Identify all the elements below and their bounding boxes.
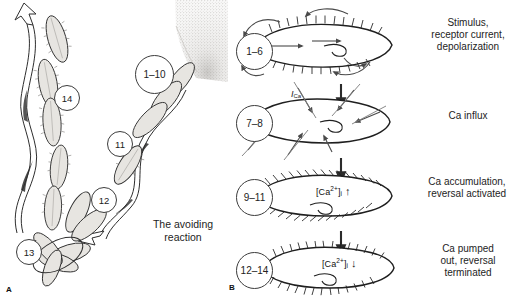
b-step-4-text: Ca pumped out, reversal terminated: [409, 243, 527, 280]
paramecium-cell: [42, 13, 73, 64]
a-marker-12: 12: [91, 187, 117, 213]
b-marker-7-8: 7–8: [236, 105, 273, 142]
down-arrow-icon: ↓: [348, 258, 357, 269]
panel-b: ICa [Ca2+]i ↑ [Ca2+]i ↓ 1–6 7–8 9–11 12–…: [228, 0, 529, 301]
a-marker-1-10-label: 1–10: [143, 69, 165, 80]
b-marker-1-6-label: 1–6: [246, 46, 263, 57]
b-step-2-text: Ca influx: [409, 110, 527, 122]
avoiding-reaction-caption: The avoiding reaction: [138, 218, 228, 243]
ica-current-label: ICa: [291, 89, 301, 99]
figure-root: 14 1–10 11 12 13 The avoiding reaction A: [0, 0, 529, 301]
panel-a: 14 1–10 11 12 13 The avoiding reaction A: [0, 0, 228, 301]
a-marker-11: 11: [107, 131, 133, 157]
calcium-concentration-label-4: [Ca2+]i: [322, 257, 348, 269]
paramecium-cell: [43, 186, 62, 231]
inbound-swim-path: [100, 88, 186, 239]
ca-sup-3: 2+: [330, 185, 338, 192]
b-marker-12-14-label: 12–14: [241, 265, 269, 276]
a-marker-11-label: 11: [115, 139, 125, 150]
ca-pre-3: [Ca: [316, 187, 330, 197]
b-step-3-text: Ca accumulation, reversal activated: [405, 176, 529, 200]
calcium-label-step-4: [Ca2+]i ↓: [322, 257, 357, 269]
panel-b-letter: B: [229, 284, 235, 292]
a-marker-13: 13: [16, 239, 42, 265]
ica-subscript: Ca: [294, 93, 302, 99]
b-marker-9-11: 9–11: [236, 179, 273, 216]
b-step-1-text: Stimulus, receptor current, depolarizati…: [409, 17, 527, 54]
outbound-swim-path: [15, 24, 36, 233]
b-marker-9-11-label: 9–11: [244, 192, 266, 203]
up-arrow-icon: ↑: [342, 186, 351, 197]
a-marker-13-label: 13: [24, 247, 35, 258]
paramecium-cell: [48, 144, 70, 190]
panel-a-letter: A: [6, 286, 12, 294]
ca-sup-4: 2+: [336, 257, 344, 264]
a-marker-14: 14: [54, 85, 80, 111]
ca-pre-4: [Ca: [322, 259, 336, 269]
outbound-arrowhead-icon: [15, 3, 36, 25]
a-marker-14-label: 14: [62, 93, 73, 104]
a-marker-1-10: 1–10: [135, 55, 174, 94]
calcium-concentration-label-3: [Ca2+]i: [316, 185, 342, 197]
calcium-label-step-3: [Ca2+]i ↑: [316, 185, 351, 197]
a-marker-12-label: 12: [99, 195, 110, 206]
b-marker-7-8-label: 7–8: [246, 118, 263, 129]
b-marker-12-14: 12–14: [236, 252, 273, 289]
b-marker-1-6: 1–6: [236, 33, 273, 70]
